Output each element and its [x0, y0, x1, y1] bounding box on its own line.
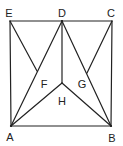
segment-db: [62, 21, 111, 126]
vertex-d: [61, 20, 63, 22]
segment-ea: [10, 21, 11, 126]
label-h: H: [58, 96, 66, 107]
segment-cb: [111, 21, 112, 126]
label-c: C: [107, 8, 115, 19]
vertices: [10, 20, 112, 127]
vertex-b: [110, 125, 112, 127]
label-b: B: [108, 133, 115, 144]
vertex-a: [10, 125, 12, 127]
label-g: G: [78, 79, 87, 90]
geometry-figure: [0, 0, 123, 146]
label-a: A: [6, 132, 13, 143]
label-d: D: [58, 8, 66, 19]
segment-cg: [87, 21, 112, 73]
segment-bh: [62, 83, 111, 126]
segment-ef: [10, 21, 37, 71]
segment-ah: [11, 83, 62, 126]
segments: [10, 21, 112, 126]
label-f: F: [41, 79, 48, 90]
label-e: E: [5, 8, 12, 19]
